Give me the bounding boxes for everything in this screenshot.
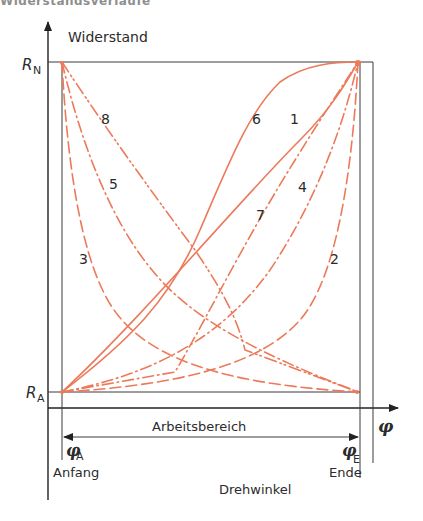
working-range-label: Arbeitsbereich bbox=[152, 419, 246, 434]
end-node bbox=[355, 60, 361, 66]
resistance-curve-diagram: 8 5 3 6 1 4 7 2 Widerstand R N R A φ Arb… bbox=[0, 0, 423, 521]
x-axis-symbol: φ bbox=[378, 416, 394, 436]
end-label: Ende bbox=[329, 465, 362, 480]
rn-subscript: N bbox=[33, 64, 41, 77]
start-node-top bbox=[60, 61, 64, 65]
start-node bbox=[60, 390, 64, 394]
curve-label-7: 7 bbox=[256, 207, 265, 223]
curve-label-4: 4 bbox=[298, 179, 307, 195]
curve-label-8: 8 bbox=[101, 111, 110, 127]
rn-label: R bbox=[22, 56, 32, 74]
curve-label-2: 2 bbox=[330, 251, 339, 267]
end-node-bottom bbox=[355, 390, 359, 394]
y-axis-label: Widerstand bbox=[68, 29, 148, 45]
ra-subscript: A bbox=[37, 392, 45, 405]
ra-label: R bbox=[26, 384, 36, 402]
curve-label-1: 1 bbox=[290, 111, 299, 127]
x-axis-label: Drehwinkel bbox=[219, 482, 291, 497]
phi-a-subscript: A bbox=[76, 450, 84, 463]
curve-label-5: 5 bbox=[109, 176, 118, 192]
start-label: Anfang bbox=[53, 465, 99, 480]
curve-label-3: 3 bbox=[79, 251, 88, 267]
curve-label-6: 6 bbox=[252, 111, 261, 127]
